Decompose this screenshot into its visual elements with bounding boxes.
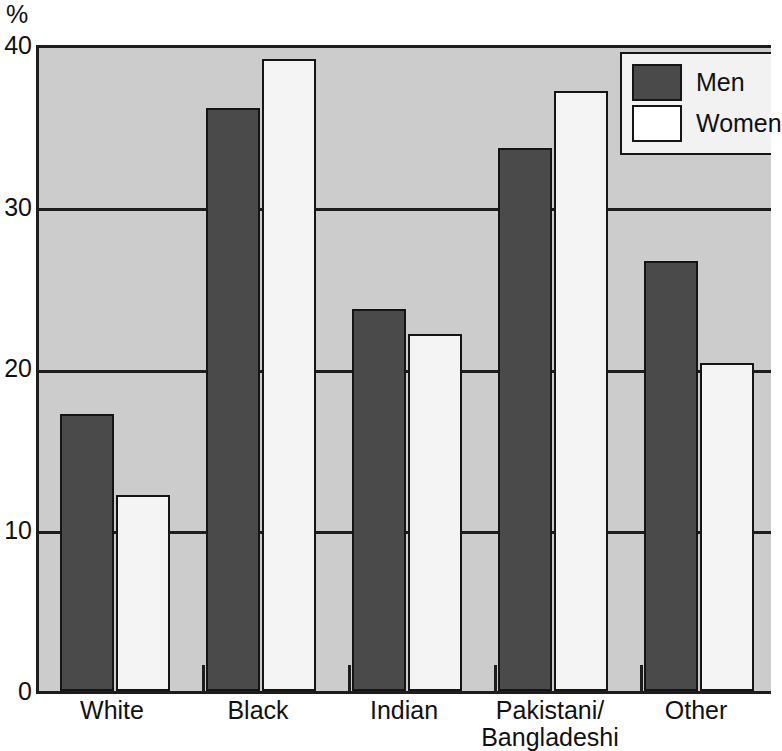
y-tick-label-30: 30 [0,194,32,219]
x-axis-line [36,691,771,694]
bar-women-other [700,363,754,691]
bar-men-white [60,414,114,691]
bar-women-indian [408,334,462,691]
x-tick-label-white: White [80,697,144,724]
legend-swatch-men [632,64,682,101]
group-separator-tick-3 [640,665,643,691]
legend-item-women: Women [632,103,771,144]
gridline-30 [39,208,771,211]
group-separator-tick-1 [348,665,351,691]
y-tick-label-0: 0 [0,679,32,704]
bar-women-white [116,495,170,691]
bar-women-black [262,59,316,691]
bar-women-pakistanibangladeshi [554,91,608,691]
y-axis-unit-label: % [6,2,28,27]
bar-men-indian [352,309,406,691]
y-tick-label-10: 10 [0,517,32,542]
x-tick-label-indian: Indian [370,697,438,724]
bar-men-black [206,108,260,691]
group-separator-tick-0 [202,665,205,691]
y-tick-label-40: 40 [0,33,32,58]
y-tick-label-20: 20 [0,356,32,381]
legend-label-women: Women [696,111,782,136]
group-separator-tick-2 [494,665,497,691]
x-tick-label-pakistanibangladeshi: Pakistani/ Bangladeshi [481,697,619,751]
x-tick-label-other: Other [665,697,728,724]
legend-item-men: Men [632,62,771,103]
x-tick-label-black: Black [227,697,288,724]
legend: MenWomen [620,52,771,155]
legend-swatch-women [632,105,682,142]
bar-men-pakistanibangladeshi [498,148,552,691]
bar-men-other [644,261,698,691]
legend-label-men: Men [696,70,745,95]
